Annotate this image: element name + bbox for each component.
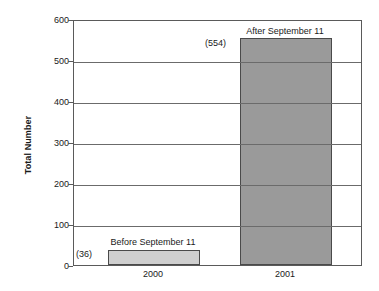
gridline-500 — [74, 62, 361, 63]
bar-2001 — [240, 38, 332, 265]
y-tick-label-100: 100 — [29, 220, 69, 230]
bar-value-label-2000: (36) — [76, 249, 92, 259]
gridline-400 — [74, 103, 361, 104]
bar-chart-figure: Total Number 600 500 400 300 200 100 0 (… — [0, 0, 379, 291]
bar-value-label-2001: (554) — [205, 38, 226, 48]
y-tick-label-200: 200 — [29, 179, 69, 189]
y-tick-mark-0 — [68, 266, 73, 267]
bar-caption-2001: After September 11 — [239, 26, 331, 36]
y-tick-label-400: 400 — [29, 97, 69, 107]
y-axis-tick-labels: 600 500 400 300 200 100 0 — [26, 20, 69, 266]
x-tick-label-2000: 2000 — [107, 269, 199, 279]
y-tick-label-0: 0 — [29, 261, 69, 271]
y-tick-label-600: 600 — [29, 15, 69, 25]
x-tick-label-2001: 2001 — [239, 269, 331, 279]
gridline-100 — [74, 226, 361, 227]
gridline-300 — [74, 144, 361, 145]
bar-2000 — [108, 250, 200, 265]
y-tick-label-300: 300 — [29, 138, 69, 148]
y-tick-label-500: 500 — [29, 56, 69, 66]
plot-area — [73, 20, 362, 266]
gridline-200 — [74, 185, 361, 186]
bar-caption-2000: Before September 11 — [107, 237, 199, 247]
